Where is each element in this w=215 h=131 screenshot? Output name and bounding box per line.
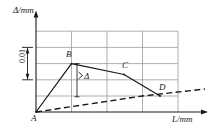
x-axis-arrowhead	[201, 110, 208, 115]
point-label-c: C	[122, 61, 128, 70]
y-axis	[34, 11, 39, 113]
measured-profile-line	[36, 64, 160, 112]
x-axis-label: L/mm	[172, 115, 193, 124]
point-marker-d	[159, 95, 161, 97]
plot-canvas	[0, 0, 215, 131]
delta-bracket-icon	[79, 72, 83, 79]
reference-datum-line	[36, 89, 205, 112]
dimension-value-label: 0.01	[19, 49, 27, 63]
point-label-b: B	[66, 50, 72, 59]
delta-annotation-label: Δ	[84, 72, 89, 81]
y-axis-arrowhead	[34, 11, 39, 18]
dimension-arrowhead-down	[26, 74, 30, 80]
point-label-d: D	[159, 83, 166, 92]
point-label-a: A	[31, 114, 37, 123]
point-marker-b	[71, 63, 73, 65]
y-axis-label: Δ/mm	[13, 6, 34, 15]
point-marker-c	[123, 74, 125, 76]
deviation-diagram-figure: Δ/mm L/mm 0.01 A B C D Δ	[0, 0, 215, 131]
